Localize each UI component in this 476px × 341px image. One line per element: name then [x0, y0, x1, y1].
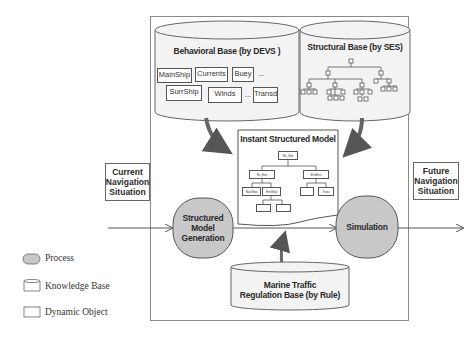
legend-knowledge-base-label: Knowledge Base — [45, 281, 110, 291]
model-node-leaf-2 — [276, 204, 291, 212]
model-node-envship: EnvShip — [262, 187, 281, 196]
object-buey: Buey — [232, 67, 254, 82]
future-navigation-situation-box: Future Navigation Situation — [413, 162, 459, 200]
model-node-nv-env: Nv_Env — [249, 170, 275, 179]
legend-process-icon — [23, 254, 40, 264]
object-surrship: SurrShip — [166, 85, 202, 101]
model-node-leaf-1 — [256, 204, 271, 212]
current-navigation-situation-box: Current Navigation Situation — [105, 163, 150, 201]
behavioral-to-model-arrow — [206, 118, 226, 150]
legend-process-label: Process — [45, 253, 74, 263]
object-ellipsis-2: ... — [243, 90, 253, 99]
rule-base-title-line2: Regulation Base (by Rule) — [232, 290, 348, 300]
object-ellipsis-1: ... — [255, 69, 267, 78]
model-node-empty — [300, 187, 314, 196]
object-winds: Winds — [208, 87, 242, 103]
process-simulation-label: Simulation — [338, 222, 396, 232]
structural-to-model-arrow — [348, 118, 362, 152]
model-node-root: Nv_Sim — [278, 151, 298, 160]
model-node-env: EnvEnv — [303, 170, 329, 179]
instant-model-title: Instant Structured Model — [240, 134, 336, 144]
rule-to-flow-arrow — [281, 236, 284, 266]
legend-dynamic-object-icon — [24, 307, 40, 317]
behavioral-base-title: Behavioral Base (by DEVS ) — [160, 46, 294, 56]
model-node-trans: Trans — [318, 187, 334, 196]
legend-dynamic-object-label: Dynamic Object — [45, 307, 108, 317]
object-currents: Currents — [195, 67, 228, 82]
structural-base-title: Structural Base (by SES) — [303, 42, 407, 52]
legend-knowledge-base-icon — [24, 279, 40, 291]
process-structured-model-generation-label: Structured Model Generation — [175, 213, 231, 243]
structural-base-cylinder — [300, 21, 410, 121]
rule-base-title-line1: Marine Traffic — [232, 280, 348, 290]
object-mainship: MainShip — [157, 68, 192, 83]
object-transd: Transd — [253, 87, 278, 103]
model-node-navship: NavShip — [242, 187, 261, 196]
